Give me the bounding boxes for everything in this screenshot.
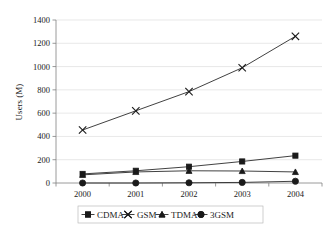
y-tick-label: 1400	[33, 15, 50, 25]
diamond-marker-icon	[292, 178, 298, 184]
chart-legend: CDMAGSMTDMA3GSM	[78, 206, 263, 223]
y-tick-label: 600	[37, 108, 50, 118]
x-tick-label: 2003	[234, 189, 251, 199]
legend-label-gsm: GSM	[137, 210, 157, 220]
square-marker-icon	[240, 159, 245, 164]
y-tick-label: 0	[46, 178, 50, 188]
y-axis-title: Users (M)	[14, 84, 24, 121]
diamond-marker-icon	[239, 179, 245, 185]
x-tick-label: 2004	[287, 189, 305, 199]
chart-background	[0, 0, 334, 235]
y-tick-label: 800	[37, 85, 50, 95]
y-tick-label: 1200	[33, 38, 50, 48]
square-marker-icon	[85, 212, 90, 217]
legend-label-cdma: CDMA	[97, 210, 125, 220]
line-chart: 0200400600800100012001400 20002001200220…	[0, 0, 334, 235]
diamond-marker-icon	[186, 180, 192, 186]
diamond-marker-icon	[133, 180, 139, 186]
x-tick-label: 2001	[127, 189, 144, 199]
y-tick-label: 1000	[33, 62, 50, 72]
x-tick-label: 2000	[74, 189, 91, 199]
diamond-marker-icon	[80, 180, 86, 186]
x-tick-label: 2002	[181, 189, 198, 199]
legend-label-tdma: TDMA	[171, 210, 198, 220]
diamond-marker-icon	[198, 211, 204, 217]
legend-label-3gsm: 3GSM	[210, 210, 234, 220]
chart-svg: 0200400600800100012001400 20002001200220…	[0, 0, 334, 235]
y-tick-label: 400	[37, 131, 50, 141]
square-marker-icon	[293, 153, 298, 158]
y-tick-label: 200	[37, 155, 50, 165]
